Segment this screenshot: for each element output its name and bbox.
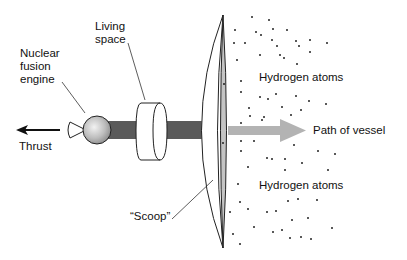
nozzle	[68, 122, 84, 138]
path-arrow	[228, 119, 306, 142]
living-space-leader-line	[128, 43, 145, 100]
living-space-cylinder	[136, 103, 167, 160]
thrust-arrow	[16, 125, 60, 135]
scoop-leader-line	[172, 180, 213, 219]
scoop	[202, 15, 227, 248]
living-space-label: Living space	[95, 20, 126, 46]
engine-leader-line	[62, 82, 85, 113]
thrust-label: Thrust	[19, 140, 52, 153]
hydrogen-atoms-bottom-label: Hydrogen atoms	[259, 179, 343, 192]
path-of-vessel-label: Path of vessel	[313, 124, 385, 137]
engine-sphere	[83, 116, 111, 144]
scoop-label: “Scoop”	[130, 210, 170, 223]
nuclear-fusion-engine-label: Nuclear fusion engine	[20, 47, 60, 86]
ramjet-diagram: Nuclear fusion engine Living space Thrus…	[0, 0, 407, 260]
hydrogen-atoms-top-label: Hydrogen atoms	[259, 71, 343, 84]
